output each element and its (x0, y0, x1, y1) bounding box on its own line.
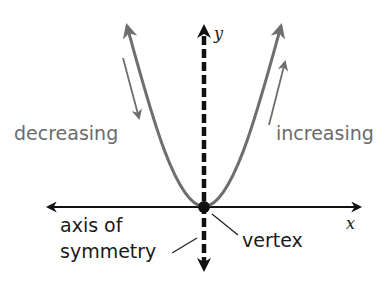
axis-of-symmetry-leader-line (172, 238, 197, 253)
vertex-leader-line (212, 214, 238, 235)
x-axis-label: x (346, 216, 355, 232)
y-axis-axis-of-symmetry (197, 24, 211, 272)
vertex-label: vertex (242, 231, 303, 250)
y-axis-label: y (214, 26, 223, 42)
y-axis-up-arrow-icon (197, 24, 211, 38)
increasing-direction-arrow (269, 62, 285, 125)
decreasing-label: decreasing (14, 124, 118, 143)
axis-of-symmetry-label-line2: symmetry (60, 242, 156, 261)
decreasing-direction-arrow (123, 58, 139, 118)
vertex-point (198, 201, 210, 213)
increasing-label: increasing (276, 124, 374, 143)
axis-of-symmetry-label-line1: axis of (60, 216, 122, 235)
